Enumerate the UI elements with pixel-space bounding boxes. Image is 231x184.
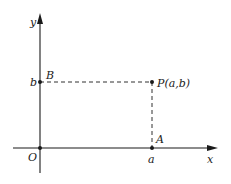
point-b <box>38 80 42 84</box>
origin-label: O <box>28 151 37 164</box>
y-axis-arrow-icon <box>37 13 43 24</box>
point-b-label: B <box>45 69 54 82</box>
y-axis-label: y <box>29 16 37 29</box>
point-p-label: P(a,b) <box>156 77 190 90</box>
x-axis-arrow-icon <box>207 145 218 151</box>
coordinate-diagram: y b B P(a,b) O a A x <box>0 0 231 184</box>
a-coord-label: a <box>148 153 155 166</box>
point-a <box>150 146 154 150</box>
point-p <box>150 80 154 84</box>
point-origin <box>38 146 42 150</box>
x-axis-label: x <box>207 153 214 166</box>
b-coord-label: b <box>30 76 37 89</box>
point-a-label: A <box>155 133 164 146</box>
